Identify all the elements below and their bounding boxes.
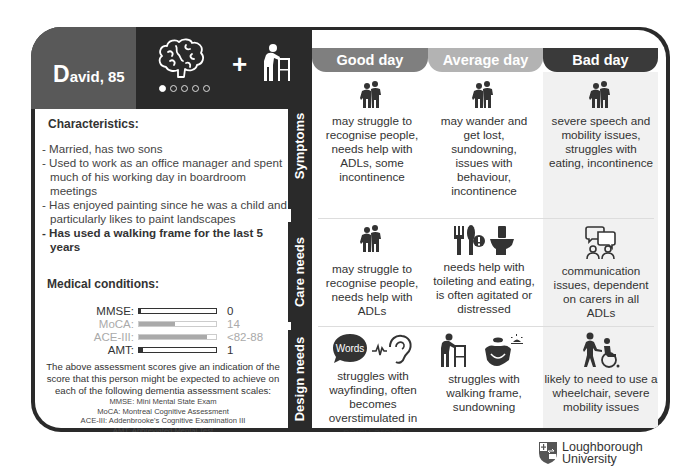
assessment-explanation: The above assessment scores give an indi…: [35, 361, 291, 432]
score-row-mmse: MMSE: 0: [75, 304, 263, 317]
score-value: 14: [217, 318, 240, 330]
speech-bubbles-people-icon: [584, 224, 618, 260]
row-label-care-needs: Care needs: [288, 222, 310, 322]
university-logo: Loughborough University: [538, 441, 643, 465]
people-icon: [357, 224, 387, 254]
pagination-dot[interactable]: [181, 85, 188, 92]
cell-text: communication issues, dependent on carer…: [549, 264, 653, 320]
row-divider: [318, 326, 654, 327]
characteristics-list: - Married, has two sons - Used to work a…: [42, 142, 292, 254]
abbreviation: AMT: Abbreviated Mental Test: [35, 426, 291, 433]
score-value: <82-88: [217, 331, 263, 343]
people-icon: [357, 80, 387, 110]
cell-text: struggles with walking frame, sundowning: [432, 372, 536, 414]
row-divider: [318, 218, 654, 219]
score-row-amt: AMT: 1: [75, 343, 263, 356]
design-average: struggles with walking frame, sundowning: [432, 332, 536, 414]
brain-icon: [156, 37, 206, 79]
score-label: ACE-III:: [75, 331, 138, 343]
score-label: AMT:: [75, 344, 138, 356]
score-bar: [138, 334, 217, 340]
pagination-dot[interactable]: [192, 85, 199, 92]
score-bar: [138, 321, 217, 327]
care-average: needs help with toileting and eating, is…: [432, 224, 536, 316]
shield-crest-icon: [538, 441, 558, 465]
score-bar: [138, 308, 217, 314]
day-matrix: Good day Average day Bad day Symptoms ma…: [312, 30, 666, 428]
name-initial: D: [53, 61, 70, 87]
score-row-moca: MoCA: 14: [75, 317, 263, 330]
pagination-dot-active[interactable]: [159, 85, 166, 92]
characteristic-item: - Has used a walking frame for the last …: [42, 226, 292, 254]
characteristics-title: Characteristics:: [48, 117, 139, 131]
plus-icon: +: [232, 49, 247, 80]
cell-text: may wander and get lost, sundowning, iss…: [439, 114, 529, 198]
symptoms-average: may wander and get lost, sundowning, iss…: [439, 80, 529, 198]
pagination-dot[interactable]: [203, 85, 210, 92]
university-name: Loughborough University: [562, 441, 643, 465]
characteristic-item: - Married, has two sons: [42, 142, 292, 156]
profile-panel: Characteristics: - Married, has two sons…: [35, 109, 291, 428]
row-label-design-needs: Design needs: [288, 330, 310, 428]
score-label: MoCA:: [75, 318, 138, 330]
persona-name: David, 85: [53, 61, 125, 88]
score-row-ace: ACE-III: <82-88: [75, 330, 263, 343]
care-bad: communication issues, dependent on carer…: [549, 224, 653, 320]
cutlery-toilet-icon: [452, 224, 516, 256]
score-value: 1: [217, 344, 233, 356]
words-ear-icon: Words: [332, 333, 414, 365]
abbreviation: MMSE: Mini Mental State Exam: [35, 397, 291, 407]
cell-text: struggles with wayfinding, often becomes…: [318, 369, 428, 432]
walking-frame-sundown-icon: [439, 332, 529, 368]
people-icon: [469, 80, 499, 110]
assessment-scores: MMSE: 0 MoCA: 14 ACE-III: <82-88 AMT: 1: [75, 304, 263, 356]
day-tabs: Good day Average day Bad day: [312, 48, 666, 72]
characteristic-item: - Has enjoyed painting since he was a ch…: [42, 198, 292, 226]
cell-text: may struggle to recognise people, needs …: [322, 114, 422, 184]
condition-icons: +: [136, 27, 296, 109]
persona-card: David, 85 + Characteristics: - Married, …: [31, 27, 670, 432]
symptoms-bad: severe speech and mobility issues, strug…: [549, 80, 653, 170]
name-rest: avid, 85: [70, 68, 125, 85]
score-fill: [139, 322, 175, 326]
cell-text: likely to need to use a wheelchair, seve…: [544, 372, 658, 414]
tab-bad-day[interactable]: Bad day: [543, 48, 658, 72]
tab-average-day[interactable]: Average day: [428, 48, 543, 72]
care-good: may struggle to recognise people, needs …: [322, 224, 422, 318]
characteristic-item: - Used to work as an office manager and …: [42, 156, 292, 198]
score-bar: [138, 347, 217, 353]
abbreviation: MoCA: Montreal Cognitive Assessment: [35, 407, 291, 417]
cell-text: needs help with toileting and eating, is…: [432, 260, 536, 316]
symptoms-good: may struggle to recognise people, needs …: [322, 80, 422, 184]
row-label-symptoms: Symptoms: [288, 83, 310, 209]
pagination-dot[interactable]: [170, 85, 177, 92]
score-fill: [139, 335, 207, 339]
cell-text: severe speech and mobility issues, strug…: [549, 114, 653, 170]
score-label: MMSE:: [75, 305, 138, 317]
pagination-dots: [159, 85, 210, 92]
words-bubble-text: Words: [336, 343, 365, 354]
name-block: David, 85: [31, 27, 136, 109]
wheelchair-icon: [581, 332, 621, 368]
score-fill: [139, 348, 143, 352]
abbreviation: ACE-III: Addenbrooke's Cognitive Examina…: [35, 416, 291, 426]
walking-frame-icon: [262, 43, 292, 83]
medical-title: Medical conditions:: [47, 277, 159, 291]
explanation-text: The above assessment scores give an indi…: [35, 361, 291, 397]
logo-line-2: University: [562, 453, 643, 465]
score-fill: [139, 309, 141, 313]
design-bad: likely to need to use a wheelchair, seve…: [544, 332, 658, 414]
design-good: Words struggles with wayfinding, often b…: [318, 333, 428, 432]
tab-good-day[interactable]: Good day: [312, 48, 428, 72]
people-icon: [586, 80, 616, 110]
score-value: 0: [217, 305, 233, 317]
cell-text: may struggle to recognise people, needs …: [322, 262, 422, 318]
